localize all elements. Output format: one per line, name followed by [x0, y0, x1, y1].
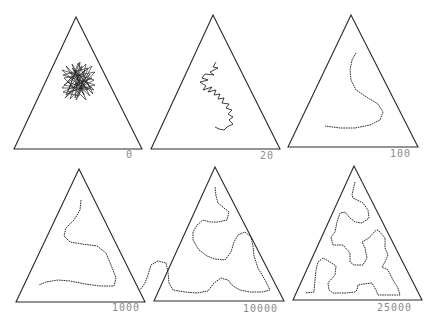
iteration-label: 20: [260, 151, 274, 161]
curve-path: [140, 187, 270, 293]
iteration-label: 10000: [243, 304, 278, 314]
iteration-label: 25000: [377, 303, 412, 313]
curve-path: [62, 62, 95, 100]
panel-iteration-20: [151, 15, 280, 149]
curve-path: [325, 53, 383, 128]
figure-canvas: [0, 0, 435, 329]
curve-path: [39, 200, 116, 286]
iteration-label: 0: [126, 150, 133, 160]
panel-iteration-100: [288, 15, 418, 147]
panel-iteration-1000: [16, 169, 145, 302]
triangle-outline: [16, 169, 145, 302]
iteration-label: 100: [390, 149, 411, 159]
iteration-label: 1000: [112, 303, 140, 313]
panel-iteration-0: [14, 17, 142, 149]
panel-iteration-25000: [293, 166, 422, 300]
curve-path: [200, 62, 233, 130]
triangle-outline: [154, 167, 284, 301]
panel-iteration-10000: [140, 167, 284, 301]
triangle-outline: [288, 15, 418, 147]
triangle-outline: [293, 166, 422, 300]
triangle-outline: [151, 15, 280, 149]
curve-path: [305, 182, 400, 295]
